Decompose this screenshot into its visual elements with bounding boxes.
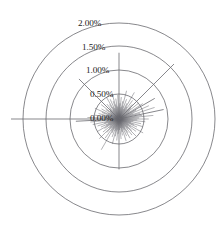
radial-tick-label: 0.00% (90, 113, 114, 123)
radial-tick-label: 1.50% (82, 42, 106, 52)
polar-chart: 0.00%0.50%1.00%1.50%2.00% (0, 0, 224, 233)
radial-tick-labels: 0.00%0.50%1.00%1.50%2.00% (78, 18, 114, 123)
polar-chart-canvas: 0.00%0.50%1.00%1.50%2.00% (0, 0, 224, 233)
radial-tick-label: 2.00% (78, 18, 102, 28)
radial-tick-label: 0.50% (90, 89, 114, 99)
radial-spoke (119, 64, 174, 119)
radial-tick-label: 1.00% (86, 65, 110, 75)
